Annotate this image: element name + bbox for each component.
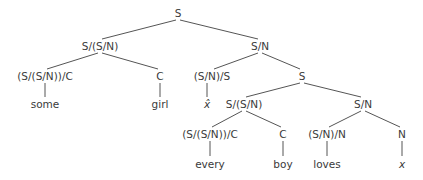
- leaf-x-hat: x̂: [204, 99, 210, 110]
- edge: [329, 111, 361, 127]
- edge: [262, 53, 300, 69]
- node-verb-loves: (S/N)/N: [308, 129, 346, 140]
- edge: [102, 53, 158, 69]
- node-determiner-some: (S/(S/N))/C: [17, 71, 73, 82]
- node-noun-c-boy: C: [279, 129, 286, 140]
- node-determiner-every: (S/(S/N))/C: [182, 129, 238, 140]
- node-n-variable: N: [398, 129, 406, 140]
- edge: [246, 111, 281, 127]
- leaf-boy: boy: [273, 159, 292, 170]
- edge: [180, 20, 258, 39]
- edge: [214, 53, 258, 69]
- edge: [47, 53, 98, 69]
- edge: [102, 20, 176, 39]
- edge: [365, 111, 400, 127]
- tree-edges: [0, 0, 423, 180]
- edge: [304, 83, 361, 97]
- edge: [212, 111, 242, 127]
- leaf-x: x: [399, 159, 405, 170]
- leaf-some: some: [31, 99, 60, 110]
- node-quantifier-np: S/(S/N): [82, 41, 118, 52]
- node-lambda-abstractor: (S/N)/S: [194, 71, 230, 82]
- leaf-girl: girl: [152, 99, 169, 110]
- node-vp-s-over-n: S/N: [354, 99, 372, 110]
- node-root-s: S: [175, 8, 182, 19]
- node-quantifier-np-every: S/(S/N): [226, 99, 262, 110]
- leaf-every: every: [195, 159, 225, 170]
- node-s-over-n: S/N: [251, 41, 269, 52]
- node-noun-c-girl: C: [156, 71, 163, 82]
- edge: [246, 83, 300, 97]
- leaf-loves: loves: [313, 159, 341, 170]
- node-embedded-s: S: [299, 71, 306, 82]
